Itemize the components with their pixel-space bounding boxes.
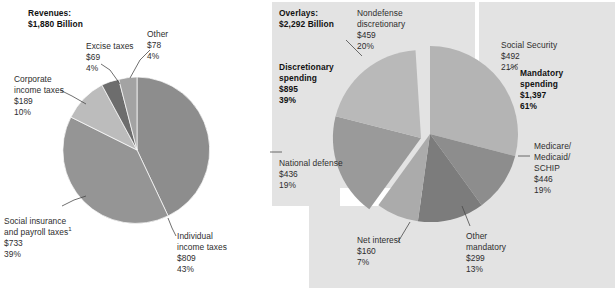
label-social-security-value: $492	[501, 51, 520, 62]
label-individual-name2: income taxes	[177, 242, 227, 253]
label-other-revenue-name: Other	[147, 29, 168, 40]
label-social-insurance-name2-text: and payroll taxes	[4, 227, 68, 237]
label-medicare-name2: Medicaid/	[534, 152, 570, 163]
label-social-insurance-name: Social insurance	[4, 216, 66, 227]
revenues-title: Revenues:	[28, 8, 71, 19]
label-medicare-name3: SCHIP	[534, 163, 560, 174]
label-net-interest-value: $160	[357, 246, 376, 257]
label-national-defense-pct: 19%	[279, 180, 296, 191]
label-individual-pct: 43%	[177, 264, 194, 275]
label-other-mandatory-name2: mandatory	[466, 242, 506, 253]
label-nondefense-pct: 20%	[357, 41, 374, 52]
label-nondefense-value: $459	[357, 30, 376, 41]
label-social-insurance-footnote: 1	[68, 226, 71, 232]
label-corporate-value: $189	[14, 96, 33, 107]
label-excise-value: $69	[86, 52, 100, 63]
label-other-mandatory-value: $299	[466, 253, 485, 264]
label-social-security-name: Social Security	[501, 40, 557, 51]
revenues-amount: $1,880 Billion	[28, 19, 83, 30]
label-social-insurance-name2: and payroll taxes1	[4, 227, 72, 238]
label-social-insurance-pct: 39%	[4, 249, 21, 260]
label-excise-pct: 4%	[86, 63, 98, 74]
label-other-mandatory-name: Other	[466, 231, 487, 242]
label-discretionary-value: $895	[279, 84, 298, 95]
label-social-insurance-value: $733	[4, 238, 23, 249]
label-excise-name: Excise taxes	[86, 41, 134, 52]
label-mandatory-name: Mandatory	[520, 68, 563, 79]
label-discretionary-name: Discretionary	[279, 62, 334, 73]
label-other-revenue-value: $78	[147, 40, 161, 51]
label-national-defense-value: $436	[279, 169, 298, 180]
label-corporate-name2: income taxes	[14, 85, 64, 96]
label-nondefense-name: Nondefense	[357, 8, 403, 19]
label-nondefense-name2: discretionary	[357, 19, 405, 30]
label-social-security-pct: 21%	[501, 62, 518, 73]
label-other-revenue-pct: 4%	[147, 51, 159, 62]
label-individual-name: Individual	[177, 231, 213, 242]
label-national-defense-name: National defense	[279, 158, 343, 169]
budget-pie-figure: Revenues: $1,880 Billion Corporate incom…	[0, 0, 615, 293]
label-net-interest-name: Net interest	[357, 235, 400, 246]
outlays-title: Overlays:	[279, 8, 318, 19]
leader-line-individual	[168, 218, 176, 236]
label-other-mandatory-pct: 13%	[466, 264, 483, 275]
label-corporate-name: Corporate	[14, 74, 52, 85]
label-medicare-value: $446	[534, 174, 553, 185]
label-mandatory-value: $1,397	[520, 90, 546, 101]
label-discretionary-pct: 39%	[279, 95, 296, 106]
label-medicare-pct: 19%	[534, 185, 551, 196]
label-corporate-pct: 10%	[14, 107, 31, 118]
label-individual-value: $809	[177, 253, 196, 264]
outlays-amount: $2,292 Billion	[279, 19, 334, 30]
label-medicare-name: Medicare/	[534, 141, 571, 152]
leader-line-social-insurance	[62, 196, 86, 206]
revenues-pie-chart	[0, 0, 270, 293]
label-net-interest-pct: 7%	[357, 257, 369, 268]
label-discretionary-name2: spending	[279, 73, 317, 84]
label-mandatory-pct: 61%	[520, 101, 537, 112]
label-mandatory-name2: spending	[520, 79, 558, 90]
